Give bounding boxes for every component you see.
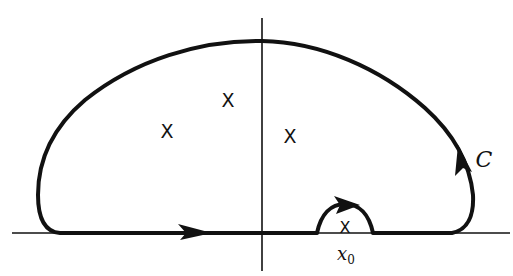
- x0-label-sub: 0: [347, 253, 355, 267]
- diagram-svg: [0, 0, 513, 276]
- axis-point-marker: X: [340, 220, 351, 236]
- x0-label: x0: [337, 243, 355, 268]
- pole-marker: X: [160, 122, 173, 141]
- pole-marker: X: [221, 91, 234, 110]
- contour-path: [38, 41, 473, 233]
- contour-diagram: X X X X x0 C: [0, 0, 513, 276]
- contour-label: C: [476, 147, 493, 172]
- pole-marker: X: [283, 127, 296, 146]
- x0-label-main: x: [337, 243, 347, 264]
